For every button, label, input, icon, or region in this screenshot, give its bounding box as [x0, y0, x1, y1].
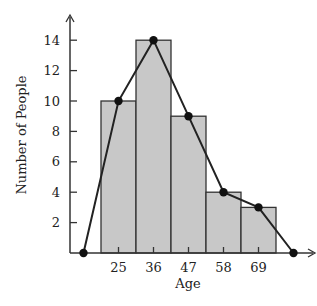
x-tick-label: 69	[250, 260, 267, 275]
bars	[101, 40, 276, 253]
x-tick-label: 58	[215, 260, 232, 275]
histogram-chart: 2468101214 2536475869 Age Number of Peop…	[0, 0, 317, 306]
data-point	[219, 188, 227, 196]
bar-69	[241, 207, 276, 253]
bar-58	[206, 192, 241, 253]
data-point	[149, 36, 157, 44]
bar-47	[171, 116, 206, 253]
data-point	[79, 249, 87, 257]
y-tick-label: 2	[52, 215, 60, 230]
y-axis-label: Number of People	[14, 75, 29, 194]
data-point	[114, 97, 122, 105]
y-tick-label: 6	[52, 154, 60, 169]
bar-36	[136, 40, 171, 253]
y-ticks: 2468101214	[43, 33, 77, 230]
y-tick-label: 4	[52, 185, 60, 200]
x-tick-label: 47	[180, 260, 197, 275]
y-tick-label: 14	[43, 33, 60, 48]
x-tick-label: 25	[110, 260, 127, 275]
y-tick-label: 12	[43, 63, 60, 78]
data-point	[289, 249, 297, 257]
y-tick-label: 8	[52, 124, 60, 139]
y-tick-label: 10	[43, 94, 60, 109]
data-point	[184, 112, 192, 120]
bar-25	[101, 101, 136, 253]
data-point	[254, 203, 262, 211]
x-axis-label: Age	[174, 276, 201, 291]
x-tick-label: 36	[145, 260, 162, 275]
